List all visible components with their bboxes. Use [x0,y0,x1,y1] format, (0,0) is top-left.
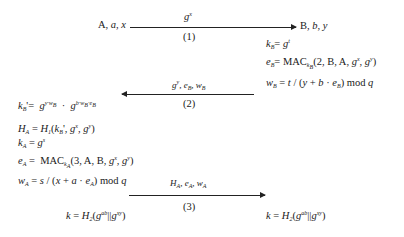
bob-step-eB: eB= MACkB(2, B, A, gx, gy) [266,57,376,67]
alice-step-kA: kA = gs [18,138,45,148]
message-1-arrow [130,27,296,28]
message-3-number: (3) [183,202,195,212]
bob-step-kB: kB= gt [266,39,290,49]
message-2-arrow [122,94,254,95]
message-3-content: HA, eA, wA [170,178,207,188]
alice-step-kB-prime: kB'= gy·wB · gb·wB·eB [18,101,96,111]
message-1-number: (1) [183,32,195,42]
alice-session-key: k = H2(gab||gxy) [66,211,125,221]
bob-step-wB: wB = t / (y + b · eB) mod q [266,78,373,88]
alice-step-wA: wA = s / (x + a · eA) mod q [18,176,126,186]
alice-step-HA: HA = H1(kB', gx, gy) [18,124,95,134]
message-2-content: gy, eB, wB [172,80,206,90]
message-1-content: gx [184,12,192,22]
bob-session-key: k = H2(gab||gxy) [266,211,325,221]
alice-step-eA: eA = MACkA(3, A, B, gx, gy) [18,156,134,166]
alice-label: A, a, x [98,20,126,30]
message-3-arrow [129,195,265,196]
message-2-number: (2) [183,99,195,109]
bob-label: B, b, y [300,21,327,31]
